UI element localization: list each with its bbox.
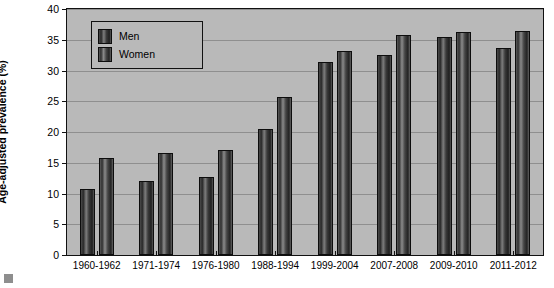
x-tick-label: 2007-2008 <box>370 260 418 271</box>
x-tick <box>513 251 514 256</box>
bar-women <box>456 32 471 255</box>
bar-group <box>484 9 544 255</box>
bar-women <box>158 153 173 255</box>
bar-women <box>99 158 114 255</box>
bar-women <box>218 150 233 255</box>
legend-label-women: Women <box>119 48 155 60</box>
x-tick <box>156 251 157 256</box>
y-tick-label: 20 <box>47 126 59 138</box>
x-tick <box>97 251 98 256</box>
legend-label-men: Men <box>119 30 139 42</box>
x-tick-label: 1988-1994 <box>251 260 299 271</box>
bar-men <box>139 181 154 255</box>
legend-swatch-men-icon <box>98 29 112 44</box>
x-tick-label: 1976-1980 <box>192 260 240 271</box>
bar-men <box>258 129 273 255</box>
bar-group <box>365 9 425 255</box>
corner-artifact <box>4 274 13 283</box>
y-tick-label: 40 <box>47 3 59 15</box>
legend-item-women: Women <box>98 45 196 63</box>
x-tick-label: 2011-2012 <box>490 260 537 271</box>
bar-group <box>246 9 306 255</box>
y-tick-label: 25 <box>47 95 59 107</box>
y-tick-label: 0 <box>53 249 59 261</box>
bar-men <box>437 37 452 255</box>
y-tick-label: 10 <box>47 188 59 200</box>
x-tick <box>454 251 455 256</box>
x-tick-label: 2009-2010 <box>430 260 478 271</box>
bar-chart: Age-adjusted prevalence (%) 051015202530… <box>0 0 554 288</box>
y-tick-label: 30 <box>47 65 59 77</box>
legend: Men Women <box>91 21 203 69</box>
x-tick-label: 1999-2004 <box>311 260 359 271</box>
y-tick-label: 15 <box>47 157 59 169</box>
bar-women <box>337 51 352 255</box>
y-axis-title: Age-adjusted prevalence (%) <box>0 60 8 204</box>
bar-men <box>80 189 95 255</box>
x-tick-label: 1971-1974 <box>132 260 180 271</box>
bar-women <box>396 35 411 255</box>
bar-men <box>377 55 392 255</box>
x-tick <box>335 251 336 256</box>
y-tick-label: 35 <box>47 34 59 46</box>
bar-group <box>305 9 365 255</box>
y-tick <box>62 255 67 256</box>
bar-men <box>199 177 214 255</box>
bar-men <box>496 48 511 255</box>
x-tick <box>394 251 395 256</box>
x-tick-label: 1960-1962 <box>73 260 121 271</box>
bar-women <box>277 97 292 255</box>
bar-men <box>318 62 333 255</box>
x-tick <box>275 251 276 256</box>
legend-swatch-women-icon <box>98 47 112 62</box>
bar-group <box>424 9 484 255</box>
x-tick <box>216 251 217 256</box>
plot-area: 0510152025303540 Men Women <box>66 8 544 256</box>
legend-item-men: Men <box>98 27 196 45</box>
bar-women <box>515 31 530 255</box>
y-tick-label: 5 <box>53 218 59 230</box>
